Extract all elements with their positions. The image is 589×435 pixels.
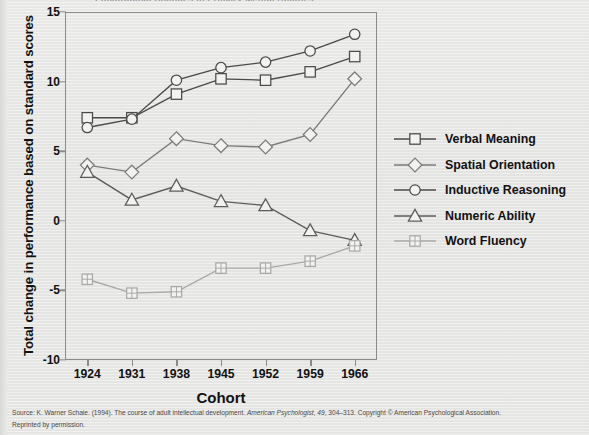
y-tick-label: -10 <box>26 353 60 367</box>
source-text-a: Source: K. Warner Schaie. (1994). The co… <box>12 409 247 416</box>
x-tick-mark <box>221 360 222 366</box>
y-tick-label: 0 <box>26 214 60 228</box>
legend-item-spatial-orientation[interactable]: Spatial Orientation <box>393 154 583 176</box>
legend-label: Word Fluency <box>437 234 527 248</box>
legend-label: Inductive Reasoning <box>437 183 566 197</box>
x-tick-mark <box>132 360 133 366</box>
source-note: Source: K. Warner Schaie. (1994). The co… <box>12 407 580 430</box>
x-tick-mark <box>176 360 177 366</box>
legend-label: Spatial Orientation <box>437 158 555 172</box>
series-numeric-ability <box>81 165 362 245</box>
y-axis-ticks: 151050-5-10 <box>20 12 60 360</box>
legend-label: Verbal Meaning <box>437 132 536 146</box>
x-tick-mark <box>87 360 88 366</box>
legend-item-numeric-ability[interactable]: Numeric Ability <box>393 205 583 227</box>
square-marker-icon <box>393 130 437 148</box>
y-tick-label: 5 <box>26 144 60 158</box>
x-axis-ticks: 1924193119381945195219591966 <box>65 360 377 386</box>
source-text-b: , 304–313. Copyright © American Psycholo… <box>325 409 501 416</box>
source-journal: American Psychologist, 49 <box>247 409 325 416</box>
y-tick-label: 15 <box>26 5 60 19</box>
x-tick-mark <box>266 360 267 366</box>
legend-item-word-fluency[interactable]: Word Fluency <box>393 230 583 252</box>
figure-container: Longitudinal Changes in Primary Mental A… <box>0 0 589 435</box>
circle-marker-icon <box>393 181 437 199</box>
diamond-marker-icon <box>393 156 437 174</box>
chart-title: Longitudinal Changes in Primary Mental A… <box>95 0 395 1</box>
crossed-square-marker-icon <box>393 232 437 250</box>
source-permission: Reprinted by permission. <box>12 421 85 428</box>
x-tick-mark <box>355 360 356 366</box>
series-spatial-orientation <box>80 72 361 179</box>
x-axis-title: Cohort <box>65 389 377 406</box>
legend-item-verbal-meaning[interactable]: Verbal Meaning <box>393 128 583 150</box>
y-tick-label: 10 <box>26 75 60 89</box>
x-tick-mark <box>310 360 311 366</box>
plot-area <box>65 12 377 360</box>
x-tick-label: 1966 <box>329 367 381 381</box>
legend-label: Numeric Ability <box>437 209 535 223</box>
series-word-fluency <box>82 241 360 299</box>
triangle-marker-icon <box>393 207 437 225</box>
y-tick-label: -5 <box>26 283 60 297</box>
legend-item-inductive-reasoning[interactable]: Inductive Reasoning <box>393 179 583 201</box>
chart-legend: Verbal MeaningSpatial OrientationInducti… <box>393 128 583 256</box>
